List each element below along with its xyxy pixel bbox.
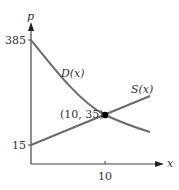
x-axis-label: x <box>167 157 174 170</box>
y-axis-arrow-icon <box>28 22 34 31</box>
demand-label: D(x) <box>60 67 85 80</box>
x-tick-10: 10 <box>98 170 112 183</box>
x-axis-arrow-icon <box>155 161 164 167</box>
supply-demand-chart: p x 385 15 10 D(x) S(x) (10, 35) <box>0 0 179 190</box>
y-tick-385: 385 <box>5 34 26 47</box>
equilibrium-label: (10, 35) <box>60 108 104 121</box>
chart-canvas: p x 385 15 10 D(x) S(x) (10, 35) <box>0 0 179 190</box>
y-axis-label: p <box>27 10 34 23</box>
supply-label: S(x) <box>131 83 153 96</box>
y-tick-15: 15 <box>12 139 26 152</box>
